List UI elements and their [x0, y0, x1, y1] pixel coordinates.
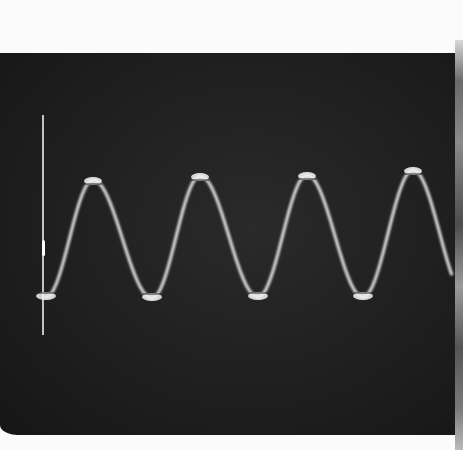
sine-trace [0, 0, 463, 450]
sine-wave-path [44, 170, 452, 298]
marker-bright-spot [42, 240, 45, 256]
